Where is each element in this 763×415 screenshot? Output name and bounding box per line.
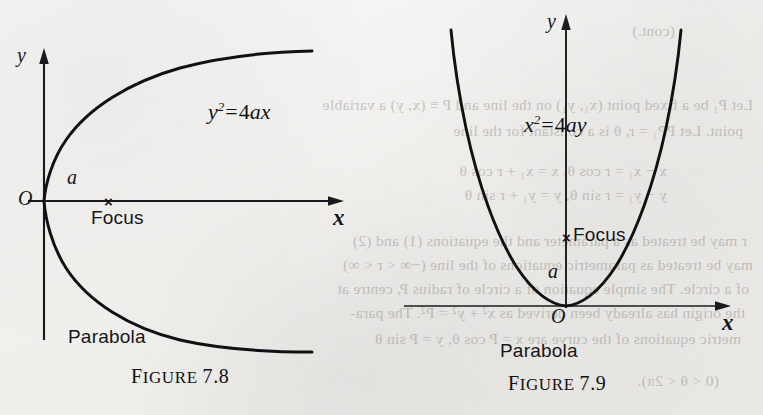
y-axis-arrowhead-right <box>561 14 570 30</box>
equation-right-rhs-a: a <box>566 112 577 137</box>
equation-right-variable: x <box>524 112 534 137</box>
equation-right-rhs-variable: y <box>577 112 587 137</box>
equation-label-right: x2=4ay <box>524 112 586 138</box>
origin-label-right: O <box>551 305 565 328</box>
equation-right-coefficient: 4 <box>555 112 566 137</box>
parabola-curve-upward-right-branch <box>566 30 681 306</box>
caption-lead-right: F <box>508 372 520 394</box>
parameter-a-label-right: a <box>548 260 558 283</box>
focus-marker-right: × <box>562 230 571 245</box>
focus-label-right: Focus <box>573 224 626 246</box>
y-axis-label-right: y <box>547 10 556 33</box>
equation-right-equals: = <box>540 112 554 137</box>
x-axis-label-right: x <box>722 310 734 336</box>
figure-7-9-drawing <box>0 0 763 415</box>
figure-caption-right: FIGURE 7.9 <box>508 372 606 395</box>
scanned-textbook-page: (cont.) Let P₁ be a fixed point (x₁, y₁)… <box>0 0 763 415</box>
curve-name-label-right: Parabola <box>500 340 578 362</box>
caption-number-right: 7.9 <box>580 372 607 394</box>
caption-smallcaps-right: IGURE <box>520 375 575 394</box>
